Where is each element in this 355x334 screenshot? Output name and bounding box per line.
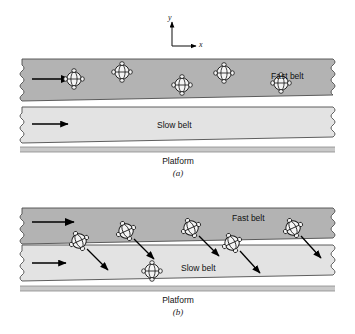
panel-b bbox=[20, 208, 335, 291]
slow-belt-label-b: Slow belt bbox=[181, 263, 216, 273]
axis-label-x: x bbox=[199, 40, 203, 49]
platform-a bbox=[20, 147, 335, 152]
panel-caption-b: (b) bbox=[158, 307, 198, 317]
slow-belt-label-a: Slow belt bbox=[157, 120, 192, 130]
slow-belt-b bbox=[20, 245, 335, 281]
coordinate-axes bbox=[172, 22, 196, 46]
fast-belt-label-a: Fast belt bbox=[271, 71, 304, 81]
fast-belt-label-b: Fast belt bbox=[232, 213, 265, 223]
panel-caption-a: (a) bbox=[158, 168, 198, 178]
physics-figure: y x Fast belt Slow belt Platform (a) Fas… bbox=[0, 0, 355, 334]
platform-b bbox=[20, 286, 335, 291]
figure-canvas bbox=[0, 0, 355, 334]
platform-label-b: Platform bbox=[138, 295, 218, 305]
panel-a bbox=[20, 22, 335, 152]
axis-label-y: y bbox=[168, 13, 172, 22]
platform-label-a: Platform bbox=[138, 156, 218, 166]
